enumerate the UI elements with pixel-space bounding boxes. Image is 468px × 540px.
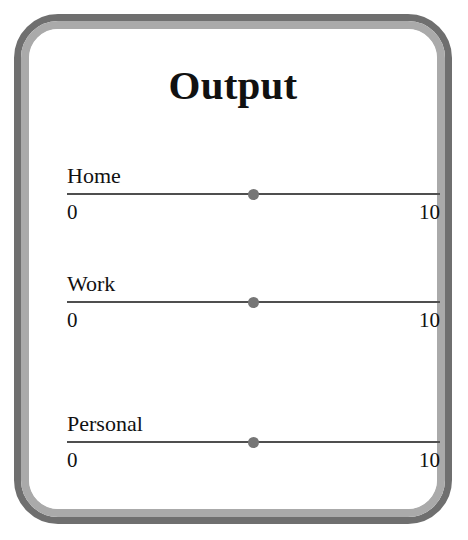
slider-scale: 010 [67,447,440,473]
slider-control[interactable] [67,301,440,304]
slider-row: Personal010 [67,411,440,473]
slider-min-label: 0 [67,447,78,473]
slider-label: Home [67,163,440,189]
slider-max-label: 10 [419,447,440,473]
slider-min-label: 0 [67,199,78,225]
slider-row: Work010 [67,271,440,333]
slider-label: Work [67,271,440,297]
slider-control[interactable] [67,193,440,196]
slider-max-label: 10 [419,307,440,333]
slider-scale: 010 [67,199,440,225]
card-inner-border: Output Home010Work010Personal010 [21,21,445,517]
screen: Output Home010Work010Personal010 [0,0,468,540]
slider-min-label: 0 [67,307,78,333]
slider-scale: 010 [67,307,440,333]
slider-max-label: 10 [419,199,440,225]
card-surface: Output Home010Work010Personal010 [29,29,437,509]
slider-row: Home010 [67,163,440,225]
slider-list: Home010Work010Personal010 [29,29,467,539]
slider-label: Personal [67,411,440,437]
slider-control[interactable] [67,441,440,444]
output-card: Output Home010Work010Personal010 [14,14,452,524]
